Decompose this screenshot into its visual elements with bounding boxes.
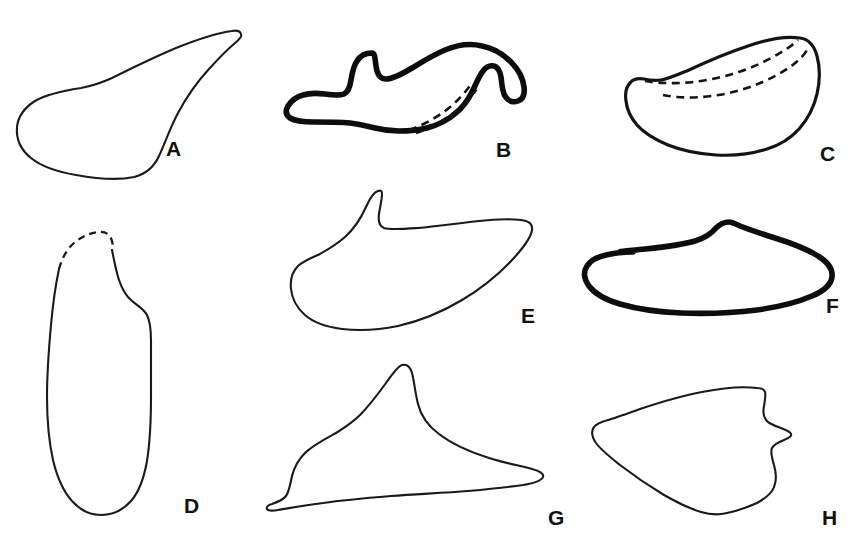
specimen-outline-d [47,232,151,515]
specimen-outline-a [17,31,241,179]
panel-label-b: B [496,139,512,160]
specimen-outline-e [291,191,532,330]
specimen-f-path [585,222,833,313]
specimen-e-path [291,191,532,330]
specimen-h-path [592,387,791,514]
panel-label-e: E [521,305,536,326]
specimen-outline-c [626,37,820,155]
specimen-b-path [286,45,524,131]
panel-label-a: A [166,138,182,159]
specimen-outline-g [267,365,543,511]
specimen-outline-f [585,222,833,313]
specimen-g-path [267,365,543,511]
panel-label-c: C [820,143,836,164]
panel-label-f: F [826,295,839,316]
specimen-outline-canvas [0,0,865,558]
panel-label-h: H [822,507,838,528]
figure-plate: A B C D E F G H [0,0,865,558]
specimen-c-path [626,37,820,155]
panel-label-d: D [184,495,200,516]
panel-label-g: G [548,507,565,528]
specimen-a-path [17,31,241,179]
specimen-outline-b [286,45,524,133]
specimen-d-path-solid [47,250,151,515]
specimen-outline-h [592,387,791,514]
